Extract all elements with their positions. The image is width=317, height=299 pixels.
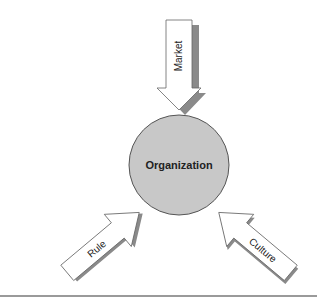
culture-arrow: Culture [204, 196, 307, 292]
organization-influence-diagram: Market Organization Rule Culture [0, 0, 317, 299]
organization-label: Organization [145, 159, 213, 171]
rule-arrow: Rule [54, 195, 156, 291]
market-arrow: Market [157, 20, 206, 115]
organization-node: Organization [129, 115, 229, 215]
bottom-divider [0, 295, 317, 297]
market-label: Market [173, 40, 184, 71]
